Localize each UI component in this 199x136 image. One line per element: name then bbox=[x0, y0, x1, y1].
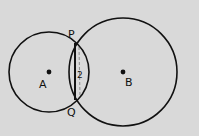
label-b: B bbox=[125, 76, 133, 89]
background bbox=[0, 0, 199, 136]
region-label-2: 2 bbox=[77, 70, 83, 80]
diagram: A B P Q 2 bbox=[0, 0, 199, 136]
label-p: P bbox=[68, 28, 75, 41]
label-q: Q bbox=[67, 106, 76, 119]
label-a: A bbox=[39, 78, 47, 91]
two-circles-diagram: A B P Q 2 bbox=[0, 0, 199, 136]
center-b-point bbox=[121, 70, 126, 75]
center-a-point bbox=[47, 70, 52, 75]
